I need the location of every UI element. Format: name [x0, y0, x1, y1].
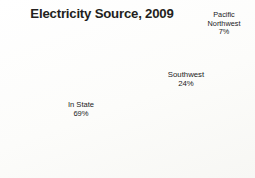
leader-line-pacific-northwest — [126, 25, 199, 50]
slice-label-southwest-name: Southwest — [168, 70, 204, 79]
slice-label-southwest: Southwest 24% — [150, 70, 222, 88]
slice-label-pacific-northwest-name-line1: Pacific — [213, 10, 235, 19]
slice-label-in-state-name: In State — [68, 100, 94, 109]
slice-label-in-state-percent: 69% — [44, 110, 118, 119]
slice-label-pacific-northwest-percent: 7% — [196, 28, 252, 37]
slice-label-pacific-northwest: Pacific Northwest 7% — [196, 11, 252, 37]
pie-slice-in-state-top — [0, 47, 123, 141]
slice-label-southwest-percent: 24% — [150, 79, 222, 88]
pie-chart-figure: Electricity Source, 2009 In State 69% So… — [0, 0, 255, 178]
slice-label-in-state: In State 69% — [44, 101, 118, 119]
chart-title: Electricity Source, 2009 — [16, 6, 188, 21]
